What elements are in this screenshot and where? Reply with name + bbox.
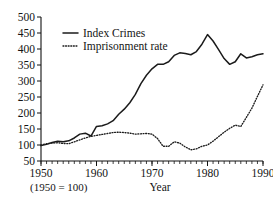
baseline-note: (1950 = 100) xyxy=(30,181,88,194)
legend-label-index-crimes: Index Crimes xyxy=(83,27,146,39)
y-axis-tick-label: 350 xyxy=(18,59,36,71)
x-axis-tick-label: 1980 xyxy=(196,167,219,179)
x-axis-label-group: 19501960197019801990 xyxy=(30,167,274,179)
line-chart: 50100150200250300350400450500 1950196019… xyxy=(0,0,273,201)
x-axis-title: Year xyxy=(149,181,170,193)
x-axis-tick-label: 1950 xyxy=(30,167,53,179)
x-axis-tick-label: 1990 xyxy=(252,167,274,179)
x-axis-tick-label: 1960 xyxy=(85,167,108,179)
y-axis-tick-label: 100 xyxy=(18,139,36,151)
legend: Index Crimes Imprisonment rate xyxy=(63,27,168,53)
y-axis-tick-label: 50 xyxy=(24,155,36,167)
y-axis-tick-label: 450 xyxy=(18,27,36,39)
y-axis-tick-group xyxy=(37,17,41,161)
legend-label-imprisonment-rate: Imprisonment rate xyxy=(83,40,168,53)
y-axis-tick-label: 250 xyxy=(18,91,36,103)
y-axis-label-group: 50100150200250300350400450500 xyxy=(18,11,36,167)
series-imprisonment-rate xyxy=(41,85,263,150)
x-axis-tick-label: 1970 xyxy=(141,167,164,179)
y-axis-tick-label: 200 xyxy=(18,107,36,119)
y-axis-tick-label: 300 xyxy=(18,75,36,87)
y-axis-tick-label: 400 xyxy=(18,43,36,55)
y-axis-tick-label: 150 xyxy=(18,123,36,135)
y-axis-tick-label: 500 xyxy=(18,11,36,23)
chart-container: 50100150200250300350400450500 1950196019… xyxy=(0,0,273,201)
